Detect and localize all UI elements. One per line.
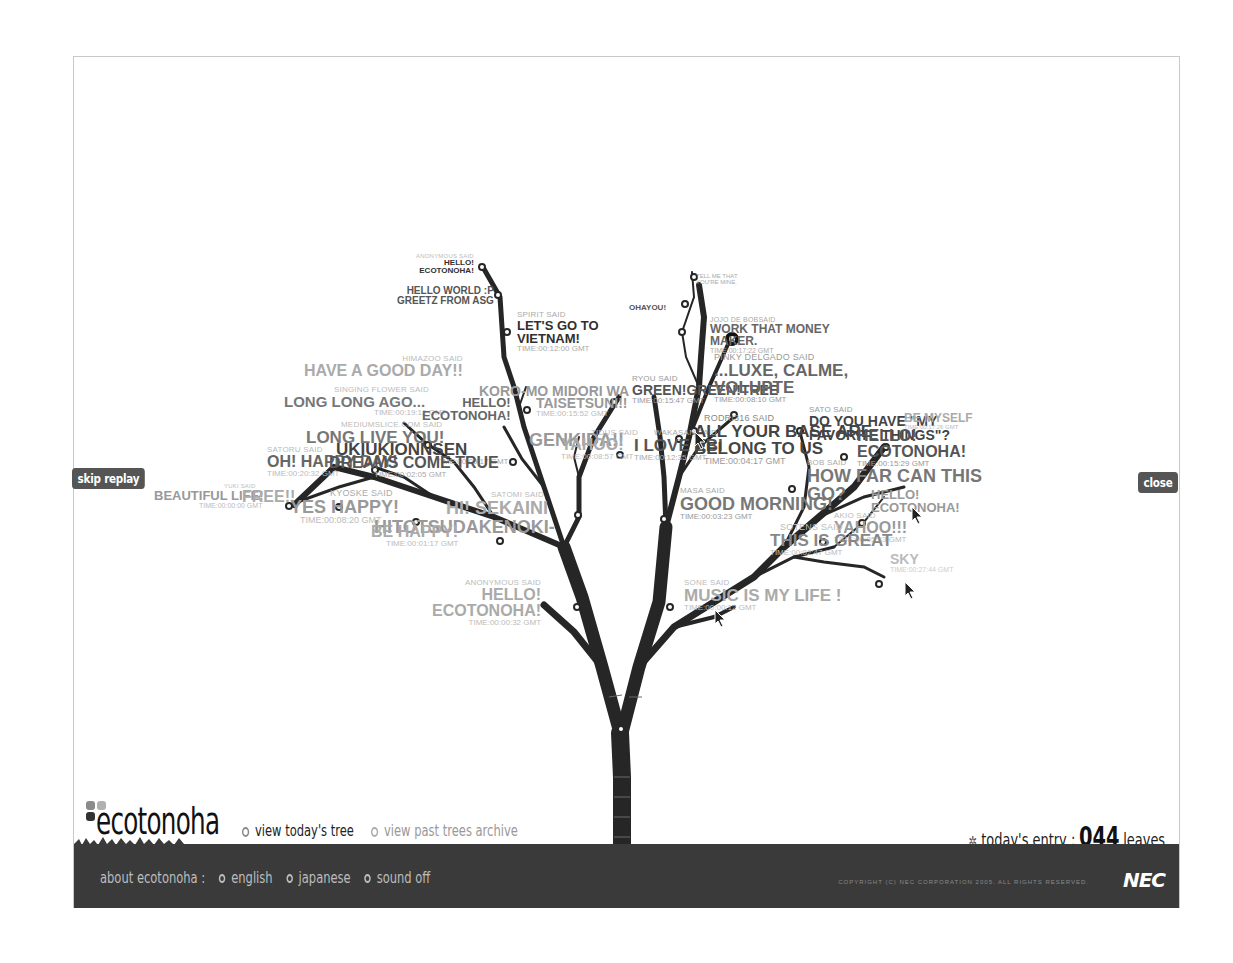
leaf-message[interactable]: FREE!! — [242, 489, 295, 505]
leaf-message[interactable]: PINKY DELGADO SAID ...LUXE, CALME,VOLUPT… — [714, 353, 848, 404]
leaf-message[interactable]: TIDUS SAID YAHOO! TIME:00:08:57 GMT — [561, 429, 638, 461]
english-link[interactable]: english — [219, 868, 273, 887]
leaf-message[interactable]: TAISETSUNI!! TIME:00:15:52 GMT — [536, 396, 628, 418]
leaf-message[interactable]: SPIRIT SAID LET'S GO TOVIETNAM! TIME:00:… — [517, 311, 599, 353]
footer-bar: about ecotonoha : english japanese sound… — [74, 846, 1180, 908]
leaf-message[interactable]: HELLO WORLD :PGREETZ FROM ASG — [397, 286, 494, 306]
pointer-cursor-icon — [904, 581, 918, 601]
replay-panel: ANONYMOUS SAID HELLO!ECOTONOHA! HELLO WO… — [73, 56, 1180, 908]
leaf-message[interactable]: SONE SAID MUSIC IS MY LIFE ! TIME:00:00:… — [684, 579, 841, 612]
leaf-message[interactable]: OHAYOU! — [629, 304, 666, 312]
leaf-message[interactable]: JOJO DE BOBSAID WORK THAT MONEYMAKER. TI… — [710, 316, 830, 354]
pointer-cursor-icon — [911, 506, 925, 526]
grass-decoration — [74, 836, 1180, 850]
leaf-message[interactable]: TELL ME THATYOU'RE MINE. — [696, 273, 738, 285]
footer-links: about ecotonoha : english japanese sound… — [100, 868, 430, 887]
nec-logo[interactable]: NEC — [1123, 868, 1165, 892]
close-button[interactable]: close — [1138, 472, 1178, 493]
leaf-message[interactable]: HIMAZOO SAID HAVE A GOOD DAY!! — [304, 355, 463, 379]
leaf-message[interactable]: BE HAPPY! TIME:00:01:17 GMT — [371, 524, 458, 548]
leaf-message[interactable]: SOTENS SAID THIS IS GREAT TIME:00:02:47 … — [770, 523, 892, 557]
pointer-cursor-icon — [714, 609, 728, 629]
about-label: about ecotonoha : — [100, 868, 205, 887]
bullet-icon — [371, 827, 378, 837]
bullet-icon — [242, 827, 249, 837]
leaf-message[interactable]: SATOMI SAID HI! SEKAINI — [446, 491, 548, 517]
japanese-link[interactable]: japanese — [286, 868, 350, 887]
leaf-message[interactable]: ANONYMOUS SAID HELLO!ECOTONOHA! — [416, 253, 474, 275]
sound-off-link[interactable]: sound off — [364, 868, 430, 887]
copyright-text: COPYRIGHT (C) NEC CORPORATION 2005. ALL … — [838, 879, 1089, 885]
leaf-message[interactable]: DREAMS COME TRUE TIME:00:02:05 GMT — [329, 455, 499, 479]
leaf-message[interactable]: SKY TIME:00:27:44 GMT — [890, 552, 953, 573]
leaf-message[interactable]: HELLO!ECOTONOHA! — [422, 396, 511, 422]
skip-replay-button[interactable]: skip replay — [72, 468, 145, 489]
leaf-message[interactable]: MASA SAID GOOD MORNING! TIME:00:03:23 GM… — [680, 487, 833, 521]
leaf-message[interactable]: ANONYMOUS SAID HELLO!ECOTONOHA! TIME:00:… — [432, 579, 541, 627]
pointer-cursor-icon — [694, 431, 708, 451]
tree-stage: ANONYMOUS SAID HELLO!ECOTONOHA! HELLO WO… — [74, 57, 1180, 857]
